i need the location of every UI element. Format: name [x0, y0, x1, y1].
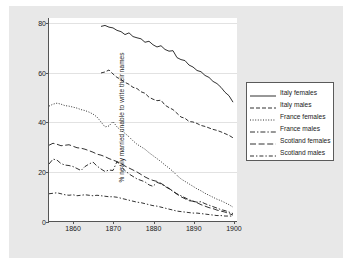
legend-item[interactable]: Scotland males	[247, 146, 333, 158]
legend-item[interactable]: Italy females	[247, 86, 333, 98]
legend-item-label: Scotland males	[280, 149, 325, 156]
legend-item-label: France females	[280, 113, 325, 120]
series-line-france-males	[49, 159, 233, 213]
legend-item[interactable]: France males	[247, 122, 333, 134]
series-line-france-females	[49, 103, 233, 207]
x-tick-label: 1870	[106, 225, 122, 232]
x-tick-label: 1890	[186, 225, 202, 232]
x-tick-label: 1880	[146, 225, 162, 232]
legend-line-swatch	[250, 135, 276, 145]
y-tick-label: 40	[38, 119, 46, 126]
legend-item[interactable]: Scotland females	[247, 134, 333, 146]
y-tick-label: 60	[38, 69, 46, 76]
x-tick-mark	[154, 221, 155, 224]
y-axis-label: % newly married unable to write their na…	[118, 38, 125, 198]
y-tick-mark	[46, 122, 49, 123]
legend-line-swatch	[250, 99, 276, 109]
series-line-scotland-males	[49, 193, 233, 216]
y-tick-mark	[46, 172, 49, 173]
plot-area: 020406080 18601870188018901900 % newly m…	[48, 18, 237, 222]
x-tick-label: 1860	[65, 225, 81, 232]
legend-line-swatch	[250, 111, 276, 121]
legend-item-label: France males	[280, 125, 320, 132]
y-tick-mark	[46, 222, 49, 223]
y-tick-label: 80	[38, 19, 46, 26]
chart-legend: Italy femalesItaly malesFrance femalesFr…	[246, 82, 334, 161]
x-tick-label: 1900	[226, 225, 242, 232]
legend-item-label: Italy females	[280, 89, 317, 96]
legend-item-label: Scotland females	[280, 137, 331, 144]
x-tick-mark	[73, 221, 74, 224]
series-lines	[49, 18, 237, 221]
legend-item[interactable]: France females	[247, 110, 333, 122]
x-tick-mark	[234, 221, 235, 224]
legend-line-swatch	[250, 123, 276, 133]
legend-line-swatch	[250, 147, 276, 157]
legend-line-swatch	[250, 87, 276, 97]
figure-background: 020406080 18601870188018901900 % newly m…	[9, 6, 343, 258]
legend-item[interactable]: Italy males	[247, 98, 333, 110]
y-tick-mark	[46, 73, 49, 74]
y-tick-mark	[46, 23, 49, 24]
y-tick-label: 20	[38, 169, 46, 176]
x-tick-mark	[194, 221, 195, 224]
x-tick-mark	[113, 221, 114, 224]
legend-item-label: Italy males	[280, 101, 312, 108]
